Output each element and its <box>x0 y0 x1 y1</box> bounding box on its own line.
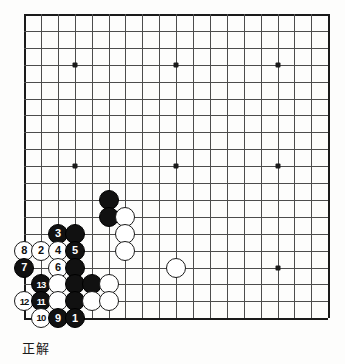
star-point <box>174 164 179 169</box>
move-stone-7[interactable]: 7 <box>14 258 34 278</box>
grid-line-horizontal <box>24 183 328 184</box>
move-number: 4 <box>55 245 61 256</box>
diagram-caption: 正解 <box>22 338 50 357</box>
stone-white[interactable] <box>166 258 186 278</box>
stone-white[interactable] <box>99 291 119 311</box>
star-point <box>174 62 179 67</box>
grid-line-vertical <box>261 14 262 318</box>
grid-line-vertical <box>328 14 330 318</box>
move-stone-1[interactable]: 1 <box>65 308 85 328</box>
move-number: 6 <box>55 262 61 273</box>
grid-line-vertical <box>193 14 194 318</box>
move-number: 10 <box>37 313 46 323</box>
star-point <box>275 62 280 67</box>
move-number: 8 <box>21 245 27 256</box>
grid-line-horizontal <box>24 217 328 218</box>
star-point <box>72 164 77 169</box>
star-point <box>275 265 280 270</box>
move-number: 11 <box>37 297 45 307</box>
grid-line-vertical <box>311 14 312 318</box>
grid-line-vertical <box>244 14 245 318</box>
go-board[interactable]: 38245761312111091 <box>0 0 345 345</box>
move-number: 1 <box>72 313 78 324</box>
grid-line-vertical <box>227 14 228 318</box>
grid-line-vertical <box>294 14 295 318</box>
move-number: 5 <box>72 245 78 256</box>
go-problem-page: 38245761312111091 正解 <box>0 0 345 364</box>
move-number: 12 <box>20 297 29 307</box>
move-number: 3 <box>55 228 61 239</box>
move-number: 2 <box>38 245 44 256</box>
stone-white[interactable] <box>115 241 135 261</box>
move-number: 7 <box>21 262 27 273</box>
grid-line-vertical <box>210 14 211 318</box>
move-number: 9 <box>55 313 61 324</box>
star-point <box>275 164 280 169</box>
move-number: 13 <box>37 280 46 290</box>
grid-line-horizontal <box>24 200 328 201</box>
star-point <box>72 62 77 67</box>
